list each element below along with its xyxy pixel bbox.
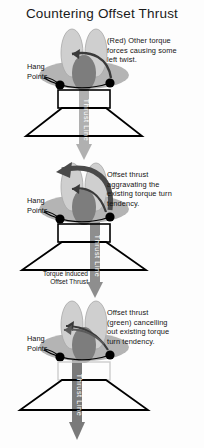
callout-line-1: Offset thrust — [107, 170, 201, 180]
callout-line-4: turn tendency. — [107, 337, 201, 347]
hang-points-label: Hang Points — [27, 196, 48, 215]
callout-line-1: (Red) Other torque — [107, 36, 199, 46]
hang-points-label: Hang Points — [27, 334, 48, 353]
hang-points-line-1: Hang — [27, 196, 48, 206]
panel-one-callout: (Red) Other torque forces causing some l… — [107, 36, 199, 65]
panel-baseline-torque: Thrust Line Hang Points (Red) Other torq… — [0, 28, 204, 168]
panel-offset-thrust-cancelling: Thrust Line Hang Points Offset thrust (g… — [0, 300, 204, 448]
hang-points-line-2: Points — [27, 344, 48, 354]
callout-line-2: forces causing some — [107, 46, 199, 56]
panel-three-callout: Offset thrust (green) cancelling out exi… — [107, 308, 201, 346]
diagram-canvas: Countering Offset Thrust — [0, 0, 204, 448]
thrust-line-label: Thrust Line — [75, 374, 84, 417]
torque-induced-offset-thrust-caption: Torque induced Offset Thrust — [4, 270, 88, 287]
callout-line-2: (green) cancelling — [107, 318, 201, 328]
hang-points-line-2: Points — [27, 206, 48, 216]
callout-line-3: out existing torque — [107, 327, 201, 337]
thrust-line-arrowhead — [76, 144, 92, 160]
hang-points-label: Hang Points — [27, 62, 48, 81]
callout-line-1: Offset thrust — [107, 308, 201, 318]
hang-points-line-1: Hang — [27, 334, 48, 344]
thrust-line-arrowhead — [87, 282, 103, 298]
callout-line-4: tendency. — [107, 199, 201, 209]
panel-offset-thrust-aggravating: Thrust Line Hang Points Offset thrust ag… — [0, 160, 204, 300]
control-frame-trapezoid — [22, 242, 146, 270]
hang-points-line-1: Hang — [27, 62, 48, 72]
page-title: Countering Offset Thrust — [0, 6, 204, 21]
center-pod — [72, 55, 96, 91]
thrust-line-label: Thrust Line — [93, 235, 102, 278]
center-pod — [72, 189, 96, 225]
torque-caption-line-2: Offset Thrust — [4, 278, 88, 286]
callout-line-2: aggravating the — [107, 180, 201, 190]
thrust-line-label: Thrust Line — [82, 99, 91, 142]
callout-line-3: left twist. — [107, 55, 199, 65]
callout-line-3: existing torque turn — [107, 189, 201, 199]
panel-two-callout: Offset thrust aggravating the existing t… — [107, 170, 201, 208]
hang-points-line-2: Points — [27, 72, 48, 82]
thrust-line-arrowhead — [69, 422, 85, 440]
torque-caption-line-1: Torque induced — [4, 270, 88, 278]
